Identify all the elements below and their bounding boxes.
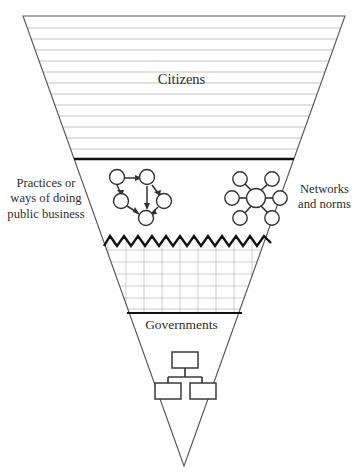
org-chart-icon [155, 352, 216, 399]
star-network-icon [225, 172, 287, 225]
grid-band-hatch [0, 238, 363, 316]
label-citizens: Citizens [0, 71, 363, 89]
funnel-diagram: Citizens Practices or ways of doing publ… [0, 0, 363, 476]
directed-network-icon [110, 170, 172, 226]
label-governments: Governments [0, 317, 363, 333]
label-practices: Practices or ways of doing public busine… [2, 176, 90, 222]
zigzag-divider [104, 236, 271, 246]
label-networks: Networks and norms [288, 182, 361, 213]
